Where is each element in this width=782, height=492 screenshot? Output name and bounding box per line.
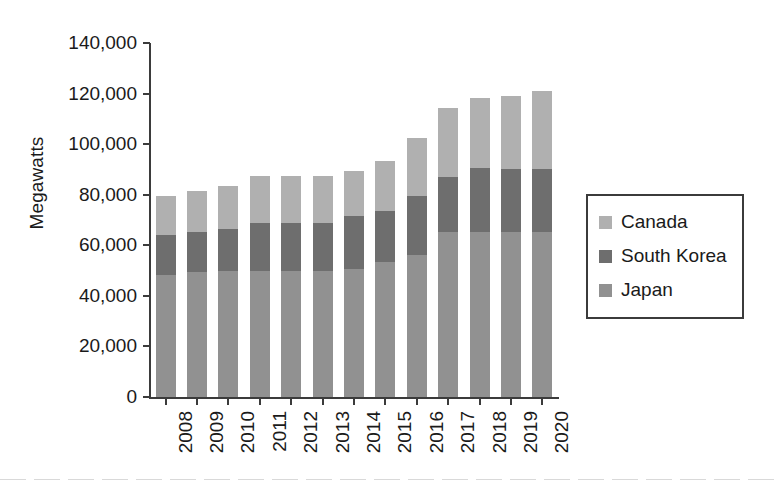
- bar-segment-japan: [218, 271, 238, 397]
- bar-segment-japan: [375, 262, 395, 397]
- y-axis-tick-mark: [143, 396, 150, 398]
- bar-segment-canada: [187, 191, 207, 232]
- bar-segment-japan: [250, 271, 270, 397]
- bar-segment-south-korea: [313, 223, 333, 272]
- x-axis-tick-mark: [416, 398, 418, 405]
- x-axis-tick-mark: [479, 398, 481, 405]
- x-axis-tick-label: 2014: [363, 411, 385, 453]
- x-axis-tick-mark: [510, 398, 512, 405]
- legend-item-canada: Canada: [599, 205, 732, 239]
- bar-segment-south-korea: [407, 196, 427, 255]
- x-axis-tick-label: 2019: [520, 411, 542, 453]
- x-axis-tick-label: 2012: [300, 411, 322, 453]
- y-axis-tick-mark: [143, 93, 150, 95]
- bar-segment-canada: [407, 138, 427, 196]
- legend-label: South Korea: [621, 245, 727, 267]
- x-axis-tick-label: 2010: [237, 411, 259, 453]
- y-axis-tick-mark: [143, 295, 150, 297]
- bar-segment-japan: [438, 232, 458, 397]
- y-axis-tick-label: 0: [25, 386, 150, 408]
- bar-segment-japan: [532, 232, 552, 397]
- y-axis-tick-label: 100,000: [25, 133, 150, 155]
- x-axis-tick-label: 2018: [489, 411, 511, 453]
- legend-swatch-icon: [599, 250, 612, 263]
- legend-item-south-korea: South Korea: [599, 239, 732, 273]
- bar-segment-japan: [470, 232, 490, 397]
- bar-segment-south-korea: [187, 232, 207, 272]
- bar-segment-japan: [313, 271, 333, 397]
- y-axis-tick-label: 140,000: [25, 32, 150, 54]
- bar-segment-south-korea: [156, 235, 176, 275]
- y-axis-tick-label: 20,000: [25, 335, 150, 357]
- bar-2015: [375, 161, 395, 397]
- x-axis-tick-mark: [447, 398, 449, 405]
- bar-2016: [407, 138, 427, 397]
- bar-segment-canada: [156, 196, 176, 235]
- bar-segment-canada: [501, 96, 521, 169]
- bar-2019: [501, 96, 521, 397]
- bar-2011: [250, 176, 270, 397]
- x-axis-tick-mark: [384, 398, 386, 405]
- bar-2020: [532, 91, 552, 397]
- x-axis-tick-label: 2009: [206, 411, 228, 453]
- bar-segment-canada: [470, 98, 490, 168]
- page-edge-artifact: [0, 479, 782, 480]
- bar-2009: [187, 191, 207, 397]
- x-axis-tick-mark: [322, 398, 324, 405]
- x-axis-tick-mark: [196, 398, 198, 405]
- y-axis-tick-label: 120,000: [25, 83, 150, 105]
- legend-swatch-icon: [599, 216, 612, 229]
- legend-swatch-icon: [599, 284, 612, 297]
- y-axis-tick-label: 60,000: [25, 234, 150, 256]
- chart-legend: CanadaSouth KoreaJapan: [586, 194, 744, 319]
- x-axis-tick-mark: [165, 398, 167, 405]
- bar-segment-canada: [218, 186, 238, 229]
- y-axis-tick-mark: [143, 143, 150, 145]
- x-axis-tick-label: 2020: [551, 411, 573, 453]
- y-axis-tick-label: 80,000: [25, 184, 150, 206]
- bar-segment-south-korea: [532, 169, 552, 232]
- x-axis-tick-label: 2011: [269, 411, 291, 452]
- x-axis-tick-label: 2016: [426, 411, 448, 453]
- bar-2013: [313, 176, 333, 397]
- x-axis-tick-label: 2013: [332, 411, 354, 453]
- bar-2018: [470, 98, 490, 397]
- bar-2012: [281, 176, 301, 397]
- x-axis-tick-mark: [290, 398, 292, 405]
- x-axis-tick-mark: [227, 398, 229, 405]
- x-axis-tick-label: 2008: [175, 411, 197, 453]
- bar-2014: [344, 171, 364, 397]
- bar-segment-south-korea: [470, 168, 490, 232]
- bar-segment-japan: [407, 255, 427, 397]
- stacked-bar-chart: Megawatts 140,000120,000100,00080,00060,…: [0, 0, 782, 492]
- y-axis-tick-mark: [143, 345, 150, 347]
- bar-segment-canada: [532, 91, 552, 169]
- x-axis-tick-label: 2015: [394, 411, 416, 453]
- bar-segment-south-korea: [250, 223, 270, 272]
- bar-segment-japan: [187, 272, 207, 397]
- bar-2010: [218, 186, 238, 397]
- legend-label: Japan: [621, 279, 673, 301]
- legend-item-japan: Japan: [599, 273, 732, 307]
- y-axis-tick-mark: [143, 244, 150, 246]
- bar-segment-japan: [344, 269, 364, 397]
- bar-segment-canada: [313, 176, 333, 222]
- bar-segment-japan: [501, 232, 521, 397]
- bar-segment-canada: [438, 108, 458, 177]
- bar-segment-canada: [250, 176, 270, 222]
- bar-2008: [156, 196, 176, 397]
- x-axis-tick-label: 2017: [457, 411, 479, 453]
- legend-label: Canada: [621, 211, 688, 233]
- bar-segment-south-korea: [501, 169, 521, 232]
- bar-segment-japan: [281, 271, 301, 397]
- bar-segment-canada: [281, 176, 301, 222]
- y-axis-tick-mark: [143, 42, 150, 44]
- bar-segment-canada: [344, 171, 364, 216]
- x-axis-tick-mark: [353, 398, 355, 405]
- y-axis-tick-mark: [143, 194, 150, 196]
- x-axis-tick-mark: [259, 398, 261, 405]
- bar-segment-japan: [156, 275, 176, 397]
- bar-segment-south-korea: [344, 216, 364, 268]
- bar-segment-south-korea: [281, 223, 301, 272]
- bar-segment-south-korea: [438, 177, 458, 232]
